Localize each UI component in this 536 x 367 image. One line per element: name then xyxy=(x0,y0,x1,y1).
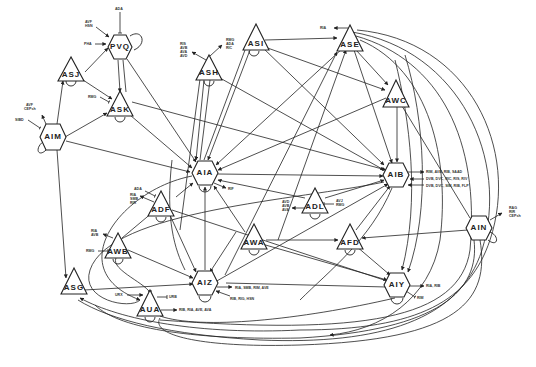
label-aib-3: DVB, DVC, SIM, RIB, FLP xyxy=(426,184,469,188)
self-loop-icon xyxy=(310,214,320,219)
self-loop-icon xyxy=(156,217,166,222)
self-loop-icon xyxy=(66,81,76,86)
node-pvq[interactable]: PVQ xyxy=(108,34,142,59)
node-awa[interactable]: AWA xyxy=(241,224,267,255)
node-label: PVQ xyxy=(110,42,130,51)
node-label: ADL xyxy=(305,202,324,211)
node-asj[interactable]: ASJ xyxy=(58,57,84,86)
node-label: AFD xyxy=(340,238,359,247)
node-label: AWB xyxy=(107,247,129,256)
node-label: AIB xyxy=(388,170,405,179)
label-ase-ria: RIA xyxy=(320,26,327,30)
edge-ain-afd xyxy=(362,230,468,238)
label-aiy-2: RIM xyxy=(417,296,424,300)
stub-aim-avf xyxy=(42,115,46,124)
node-label: AIM xyxy=(44,132,62,141)
label-ash-ric: RIC xyxy=(226,46,233,50)
node-label: AIZ xyxy=(197,278,213,287)
stub-ash-rmg xyxy=(210,45,222,56)
node-adl[interactable]: ADL xyxy=(302,188,328,219)
label-ain-ceps: CEPsh xyxy=(509,214,521,218)
label-aib-1: RIM, AVB, RIB, SAAD xyxy=(426,170,463,174)
node-afd[interactable]: AFD xyxy=(337,224,363,255)
label-pvq-hsn: HSN xyxy=(85,24,93,28)
node-label: ASI xyxy=(248,39,264,48)
node-label: ASE xyxy=(340,40,359,49)
edge-ask-aib xyxy=(132,102,386,170)
label-awb-avb: AVB xyxy=(91,233,99,237)
edge-aim-asj xyxy=(57,81,63,124)
edge-aia-aib xyxy=(218,174,383,176)
edge-ain-asg-curve xyxy=(95,240,475,338)
stub-ain-out xyxy=(490,213,502,220)
edge-awc-ain xyxy=(402,106,470,218)
node-label: AIA xyxy=(197,168,214,177)
edge-aim-ask xyxy=(65,113,107,137)
label-aib-2: DVB, DVC, RIC, RIS, RIV xyxy=(426,177,468,181)
edge-asg-aiz xyxy=(84,284,193,290)
edge-ase-awc xyxy=(356,50,388,85)
edge-adl-aib xyxy=(325,180,384,198)
edge-ash-down xyxy=(180,79,200,230)
node-awb[interactable]: AWB xyxy=(105,233,131,264)
node-label: AWC xyxy=(385,96,407,105)
self-loop-icon xyxy=(113,259,123,264)
label-pvq-pha: PHA xyxy=(84,42,92,46)
label-ash-avd: AVD xyxy=(180,54,188,58)
label-aia-rif: RIF xyxy=(228,187,235,191)
label-adf-ada: ADA xyxy=(134,187,142,191)
stub-ash-ris xyxy=(192,52,206,60)
node-label: AIN xyxy=(471,223,488,232)
stub-aiz-in xyxy=(216,291,230,296)
label-pvq-ada: ADA xyxy=(115,7,123,11)
self-loop-icon xyxy=(115,117,125,122)
label-ask-rmg: RMG xyxy=(88,95,97,99)
edge-afd-aiy xyxy=(356,246,390,275)
edge-curve-aiy-in-2 xyxy=(405,55,422,272)
label-aiy-1: RIA, RIB xyxy=(426,284,441,288)
edge-asj-pvq xyxy=(85,48,108,72)
node-label: ASG xyxy=(64,283,84,292)
node-asg[interactable]: ASG xyxy=(61,268,87,294)
self-loop-icon xyxy=(199,296,211,302)
node-ase[interactable]: ASE xyxy=(337,25,363,51)
edge-pvq-ask xyxy=(118,60,120,92)
label-aiz-1: RIA, SMB, RIM, AVE xyxy=(235,286,269,290)
stub-aiy-rim xyxy=(406,291,415,297)
node-aib[interactable]: AIB xyxy=(383,163,409,187)
edge-awb-aiz xyxy=(128,250,193,278)
label-aua-out: RIB, RIA, AVE, AVA xyxy=(179,308,212,312)
neural-network-diagram: PVQ ASJ ASH ASI ASE AWC ASK AIM xyxy=(0,0,536,367)
label-aim-sibd: SIBD xyxy=(15,118,24,122)
self-loop-icon xyxy=(249,250,259,255)
edge-pvq-ask-2 xyxy=(123,60,126,92)
label-aua-urx: URX xyxy=(115,293,123,297)
edge-ash-aia xyxy=(196,80,204,160)
edge-asi-awc xyxy=(262,46,385,90)
self-loop-icon xyxy=(249,51,259,56)
edge-pvq-aia xyxy=(127,59,196,162)
edge-adf-aiz xyxy=(169,213,196,272)
node-aim[interactable]: AIM xyxy=(38,124,66,153)
stub-adf-ria xyxy=(140,196,154,202)
stub-aia-rif xyxy=(214,183,226,188)
edge-aim-asg xyxy=(57,150,66,278)
edge-awc-aia xyxy=(218,98,386,170)
label-adf-rir: RIR xyxy=(130,201,137,205)
stub-aim-sibd xyxy=(28,120,40,128)
label-adl-rmg: RMG xyxy=(336,203,345,207)
node-label: AIY xyxy=(389,280,405,289)
node-label: ASK xyxy=(110,105,130,114)
edge-aiz-ase xyxy=(225,52,337,275)
node-label: AUA xyxy=(140,305,160,314)
node-label: ASJ xyxy=(62,70,81,79)
label-adl-ava: AVA xyxy=(282,208,289,212)
edge-asi-ase xyxy=(265,38,337,40)
edge-ash-aib xyxy=(220,78,384,170)
stub-ask-rmg xyxy=(100,97,109,102)
node-aiz[interactable]: AIZ xyxy=(192,271,218,302)
node-adf[interactable]: ADF xyxy=(148,191,174,222)
node-label: ADF xyxy=(151,205,170,214)
label-aua-urb: URB xyxy=(169,295,177,299)
node-ask[interactable]: ASK xyxy=(107,91,133,122)
